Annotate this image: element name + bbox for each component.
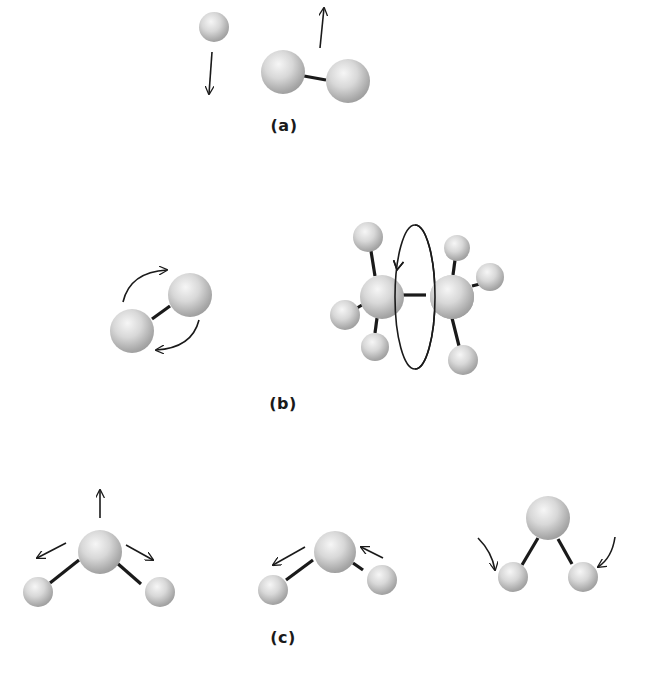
bond — [286, 560, 313, 580]
bond — [558, 539, 572, 564]
motion-arrow-icon — [37, 543, 66, 558]
bond — [304, 76, 326, 80]
atom — [361, 333, 389, 361]
atom — [367, 565, 397, 595]
bond — [152, 306, 170, 319]
atom — [258, 575, 288, 605]
curved-arrow-icon — [598, 537, 615, 567]
motion-arrow-icon — [361, 547, 383, 558]
panel-b-rotation — [110, 222, 504, 375]
bond — [117, 563, 141, 584]
panel-c-label: (c) — [270, 628, 296, 647]
panel-a-label: (a) — [271, 116, 298, 135]
atom — [448, 345, 478, 375]
atom — [145, 577, 175, 607]
curved-arrow-icon — [123, 270, 167, 302]
atom — [568, 562, 598, 592]
bond — [353, 563, 363, 570]
atom — [326, 59, 370, 103]
atom — [498, 562, 528, 592]
motion-arrow-icon — [126, 545, 153, 560]
atom — [110, 309, 154, 353]
atom — [23, 577, 53, 607]
bond — [371, 251, 375, 276]
atom — [476, 263, 504, 291]
bond — [50, 560, 79, 583]
bond — [522, 538, 538, 565]
atom — [430, 275, 474, 319]
atom — [78, 530, 122, 574]
motion-arrow-icon — [209, 52, 212, 94]
panel-c-vibration — [23, 490, 615, 607]
atom — [199, 12, 229, 42]
atom — [168, 273, 212, 317]
bond — [453, 260, 455, 275]
motion-arrow-icon — [273, 547, 305, 565]
diagram-canvas — [0, 0, 651, 692]
bond — [452, 318, 459, 346]
panel-b-label: (b) — [269, 394, 297, 413]
atom — [261, 50, 305, 94]
motion-arrow-icon — [320, 8, 324, 48]
atom — [330, 300, 360, 330]
molecular-motion-diagram: (a) (b) (c) — [0, 0, 651, 692]
bond — [375, 318, 377, 333]
atom — [360, 275, 404, 319]
panel-a-translation — [199, 8, 370, 103]
curved-arrow-icon — [156, 320, 199, 350]
atom — [444, 235, 470, 261]
atom — [353, 222, 383, 252]
curved-arrow-icon — [478, 538, 495, 570]
atom — [526, 496, 570, 540]
atom — [314, 531, 356, 573]
